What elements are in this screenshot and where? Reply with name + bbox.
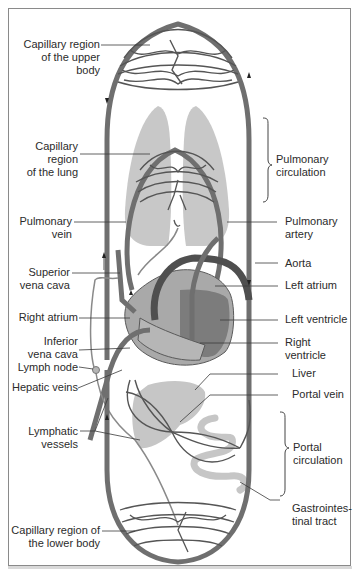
label-aorta: Aorta xyxy=(285,257,350,270)
label-lymph-node: Lymph node xyxy=(2,361,78,374)
liver xyxy=(132,381,205,448)
label-pulmonary-circulation: Pulmonary circulation xyxy=(276,153,351,179)
label-capillary-lower-body: Capillary region of the lower body xyxy=(10,524,100,550)
label-hepatic-veins: Hepatic veins xyxy=(2,381,78,394)
label-capillary-upper-body: Capillary region of the upper body xyxy=(20,38,100,77)
lymph-node-shape xyxy=(93,367,100,374)
capillary-net-lower xyxy=(120,503,236,553)
label-left-ventricle: Left ventricle xyxy=(285,313,353,326)
label-right-atrium: Right atrium xyxy=(2,311,78,324)
label-liver: Liver xyxy=(292,367,347,380)
label-pulmonary-vein: Pulmonary vein xyxy=(10,215,72,241)
label-left-atrium: Left atrium xyxy=(285,279,350,292)
heart xyxy=(125,270,234,365)
label-superior-vena-cava: Superior vena cava xyxy=(10,266,70,292)
label-pulmonary-artery: Pulmonary artery xyxy=(285,215,350,241)
label-portal-circulation: Portal circulation xyxy=(293,441,353,467)
gastrointestinal-tract xyxy=(194,418,245,490)
label-gastrointestinal-tract: Gastrointes- tinal tract xyxy=(292,502,352,528)
label-lymphatic-vessels: Lymphatic vessels xyxy=(10,425,78,451)
label-inferior-vena-cava: Inferior vena cava xyxy=(10,335,78,361)
flow-arrows xyxy=(102,72,251,420)
capillary-net-upper xyxy=(118,30,238,90)
label-right-ventricle: Right ventricle xyxy=(285,336,353,362)
label-portal-vein: Portal vein xyxy=(292,388,352,401)
label-capillary-lung: Capillary region of the lung xyxy=(20,140,78,179)
